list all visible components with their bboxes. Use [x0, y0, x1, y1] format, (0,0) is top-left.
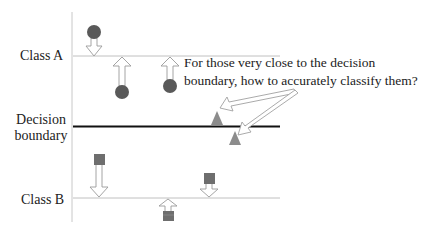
- class-b-label: Class B: [21, 192, 64, 208]
- class-a-sample-1: [86, 25, 102, 56]
- circle-marker: [163, 79, 177, 93]
- annotation-line2: boundary, how to accurately classify the…: [184, 72, 418, 90]
- hollow-arrow-up-icon: [161, 57, 179, 80]
- class-b-sample-1: [90, 154, 108, 197]
- hollow-arrow-up-icon: [113, 57, 131, 86]
- hollow-arrow-down-icon: [200, 183, 218, 197]
- class-a-label: Class A: [20, 48, 63, 64]
- decision-label-line2: boundary: [14, 128, 68, 144]
- circle-marker: [87, 25, 101, 39]
- circle-marker: [115, 85, 129, 99]
- triangle-marker-above: [211, 111, 223, 125]
- hollow-arrow-down-icon: [86, 38, 102, 56]
- class-a-sample-2: [113, 57, 131, 99]
- decision-boundary-label: Decision boundary: [14, 112, 68, 144]
- square-marker: [94, 154, 105, 165]
- class-b-sample-3: [159, 199, 177, 221]
- annotation-pointers: [220, 89, 298, 135]
- square-marker: [204, 173, 215, 184]
- square-marker: [163, 211, 174, 221]
- class-a-sample-3: [161, 57, 179, 93]
- annotation-text: For those very close to the decision bou…: [184, 54, 418, 90]
- decision-label-line1: Decision: [14, 112, 68, 128]
- hollow-arrow-down-icon: [90, 164, 108, 197]
- class-b-sample-2: [200, 173, 218, 197]
- annotation-line1: For those very close to the decision: [184, 54, 418, 72]
- hollow-arrow-up-icon: [159, 199, 177, 212]
